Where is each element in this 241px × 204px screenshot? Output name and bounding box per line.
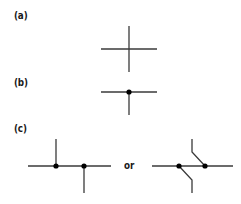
t-junction (101, 92, 157, 115)
junction-dot (126, 89, 131, 94)
junction-diagram (0, 0, 241, 204)
junction-dot (53, 163, 58, 168)
jogged-wire-up (192, 139, 205, 166)
jogged-junctions (152, 139, 233, 193)
crossing-no-junction (101, 26, 157, 72)
junction-dot (81, 163, 86, 168)
offset-t-junctions (28, 139, 111, 193)
junction-dot (202, 163, 207, 168)
jogged-wire-down (179, 166, 192, 193)
junction-dot (176, 163, 181, 168)
